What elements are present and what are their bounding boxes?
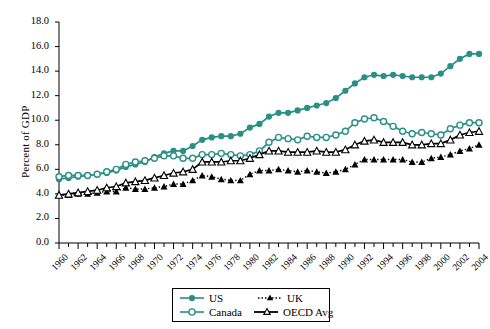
data-point — [66, 172, 72, 178]
legend-label-oecd-avg: OECD Avg — [283, 306, 333, 318]
series-oecd-avg — [55, 128, 482, 199]
data-point — [218, 176, 225, 182]
data-point — [256, 121, 262, 127]
data-point — [94, 171, 100, 177]
data-point — [295, 107, 301, 113]
data-point — [132, 159, 138, 165]
data-point — [447, 126, 453, 132]
data-point — [399, 156, 406, 162]
data-point — [142, 158, 148, 164]
data-point — [151, 155, 157, 161]
data-point — [285, 136, 291, 142]
data-point — [457, 56, 463, 62]
data-point — [476, 120, 482, 126]
data-point — [209, 134, 215, 140]
data-point — [170, 181, 177, 187]
data-point — [447, 151, 454, 157]
data-point — [266, 139, 272, 145]
data-point — [247, 124, 253, 130]
data-point — [371, 115, 377, 121]
data-point — [361, 74, 367, 80]
legend-symbol-oecd-avg — [253, 306, 279, 318]
data-point — [285, 110, 291, 116]
legend-entry-oecd-avg: OECD Avg — [253, 306, 333, 318]
data-point — [371, 156, 378, 162]
data-point — [342, 128, 348, 134]
data-point — [113, 166, 119, 172]
data-point — [428, 74, 434, 80]
data-point — [352, 120, 358, 126]
data-point — [161, 153, 167, 159]
data-point — [85, 172, 91, 178]
data-point — [476, 141, 483, 147]
data-point — [438, 132, 444, 138]
data-point — [190, 155, 196, 161]
data-point — [419, 74, 425, 80]
data-point — [180, 148, 186, 154]
data-point — [351, 161, 358, 167]
data-point — [199, 152, 205, 158]
data-point — [218, 133, 224, 139]
data-point — [171, 153, 177, 159]
data-point — [180, 155, 186, 161]
data-point — [466, 145, 473, 151]
data-point — [141, 185, 148, 191]
legend-entry-uk: UK — [257, 292, 303, 304]
data-point — [123, 161, 129, 167]
data-point — [314, 134, 320, 140]
legend-symbol-uk — [257, 292, 283, 304]
data-point — [304, 133, 310, 139]
data-point — [104, 169, 110, 175]
data-point — [381, 118, 387, 124]
data-point — [371, 72, 377, 78]
data-point — [275, 110, 281, 116]
data-point — [314, 102, 320, 108]
data-point — [438, 70, 444, 76]
data-point — [447, 136, 454, 143]
data-point — [295, 137, 301, 143]
data-point — [237, 131, 243, 137]
data-point — [218, 150, 224, 156]
data-point — [75, 172, 81, 178]
data-point — [294, 168, 301, 174]
data-point — [466, 120, 472, 126]
data-point — [400, 128, 406, 134]
data-point — [190, 143, 196, 149]
legend-symbol-us — [179, 292, 205, 304]
data-point — [333, 95, 339, 101]
data-point — [189, 177, 196, 183]
data-point — [390, 72, 396, 78]
series-us — [56, 51, 482, 182]
data-point — [323, 100, 329, 106]
data-point — [323, 170, 330, 176]
legend-entry-canada: Canada — [179, 306, 242, 318]
data-point — [361, 116, 367, 122]
data-point — [457, 122, 463, 128]
data-point — [237, 177, 244, 183]
data-point — [323, 134, 329, 140]
data-point — [390, 123, 396, 129]
legend-symbol-canada — [179, 306, 205, 318]
data-point — [476, 51, 482, 57]
data-point — [342, 166, 349, 172]
data-point — [228, 133, 234, 139]
data-point — [428, 131, 434, 137]
data-point — [276, 134, 282, 140]
legend-label-us: US — [209, 292, 223, 304]
legend-entry-us: US — [179, 292, 223, 304]
data-point — [409, 131, 415, 137]
data-point — [447, 63, 453, 69]
data-point — [342, 88, 348, 94]
data-point — [400, 73, 406, 79]
data-point — [409, 74, 415, 80]
data-point — [380, 73, 386, 79]
data-point — [266, 113, 272, 119]
legend-label-uk: UK — [287, 292, 303, 304]
data-point — [466, 51, 472, 57]
data-point — [342, 146, 349, 153]
data-point — [56, 174, 62, 180]
data-point — [266, 167, 273, 173]
data-point — [209, 152, 215, 158]
